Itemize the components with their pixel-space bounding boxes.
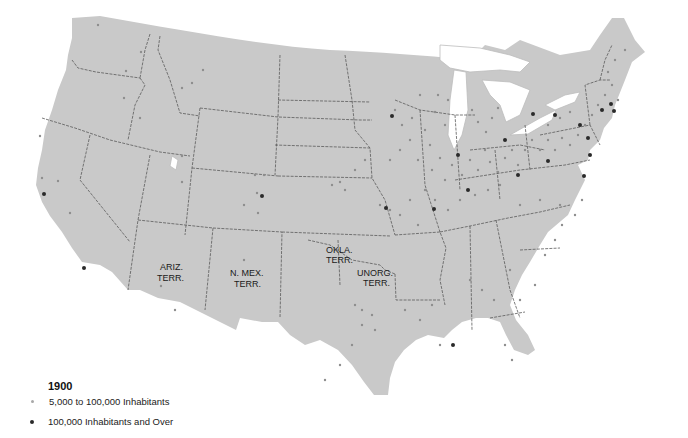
label-nmex-terr: N. MEX. <box>230 268 264 278</box>
large-dot-icon <box>30 420 34 424</box>
label-unorg-terr-2: TERR. <box>363 278 390 288</box>
small-dot-icon <box>31 400 34 403</box>
legend-label-large: 100,000 Inhabitants and Over <box>48 416 173 427</box>
label-ariz-terr-2: TERR. <box>157 273 184 283</box>
legend-item-small-cities: 5,000 to 100,000 Inhabitants <box>30 396 169 407</box>
legend-label-small: 5,000 to 100,000 Inhabitants <box>49 396 169 407</box>
label-okla-terr: OKLA. <box>326 245 353 255</box>
label-ariz-terr: ARIZ. <box>160 262 183 272</box>
legend-title: 1900 <box>48 380 72 392</box>
us-landmass <box>36 16 645 395</box>
legend-item-large-cities: 100,000 Inhabitants and Over <box>30 416 173 427</box>
label-nmex-terr-2: TERR. <box>234 279 261 289</box>
label-unorg-terr: UNORG. <box>357 268 393 278</box>
label-okla-terr-2: TERR. <box>326 255 353 265</box>
us-map-1900: ARIZ. TERR. N. MEX. TERR. OKLA. TERR. UN… <box>0 0 688 438</box>
